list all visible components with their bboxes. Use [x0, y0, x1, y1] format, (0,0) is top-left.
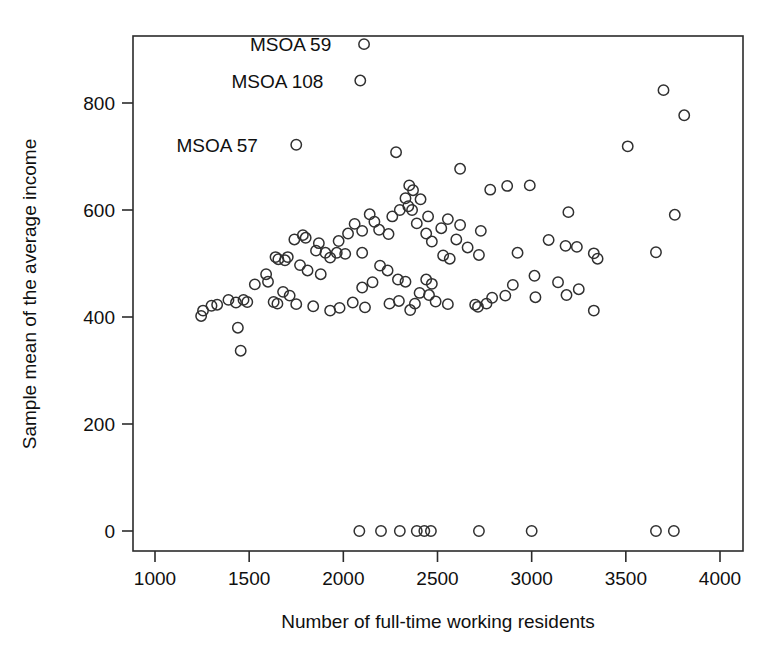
plot-frame: [133, 36, 743, 551]
data-point: [348, 297, 358, 307]
data-point: [357, 226, 367, 236]
data-point: [445, 253, 455, 263]
data-point: [383, 229, 393, 239]
data-point: [508, 280, 518, 290]
data-point: [295, 260, 305, 270]
data-point: [393, 274, 403, 284]
data-point: [316, 269, 326, 279]
data-point: [414, 288, 424, 298]
data-point: [235, 346, 245, 356]
data-point: [455, 220, 465, 230]
y-tick-label: 200: [83, 414, 115, 435]
data-point: [387, 211, 397, 221]
data-point: [400, 276, 410, 286]
data-point: [375, 260, 385, 270]
data-point: [525, 180, 535, 190]
data-point: [283, 252, 293, 262]
data-point: [572, 242, 582, 252]
data-point: [308, 301, 318, 311]
data-point: [300, 233, 310, 243]
data-point: [443, 214, 453, 224]
data-point: [543, 235, 553, 245]
data-point: [658, 85, 668, 95]
y-tick-label: 400: [83, 307, 115, 328]
data-point: [343, 228, 353, 238]
x-tick-label: 1000: [134, 568, 176, 589]
data-point: [474, 526, 484, 536]
data-point: [289, 234, 299, 244]
data-point: [651, 526, 661, 536]
data-point: [438, 250, 448, 260]
data-point: [280, 255, 290, 265]
x-axis-title: Number of full-time working residents: [281, 611, 595, 632]
data-point: [487, 293, 497, 303]
data-point-layer: [196, 39, 689, 536]
data-point: [250, 279, 260, 289]
data-point: [455, 164, 465, 174]
data-point: [391, 147, 401, 157]
annotation-layer: MSOA 59MSOA 108MSOA 57: [176, 34, 331, 156]
data-point: [679, 110, 689, 120]
data-point: [476, 226, 486, 236]
x-tick-label: 4000: [699, 568, 741, 589]
data-point: [651, 247, 661, 257]
data-point: [474, 250, 484, 260]
x-axis-ticks: 1000150020002500300035004000: [134, 551, 741, 589]
data-point: [415, 194, 425, 204]
data-point: [526, 526, 536, 536]
data-point: [263, 276, 273, 286]
y-axis-ticks: 0200400600800: [83, 93, 133, 542]
data-point: [382, 265, 392, 275]
y-tick-label: 0: [104, 521, 115, 542]
data-point: [485, 184, 495, 194]
data-point: [436, 223, 446, 233]
plot-canvas: 1000150020002500300035004000 02004006008…: [0, 0, 781, 647]
scatter-plot-figure: 1000150020002500300035004000 02004006008…: [0, 0, 781, 647]
data-point: [376, 526, 386, 536]
annotation-label: MSOA 57: [176, 135, 257, 156]
data-point: [670, 210, 680, 220]
data-point: [357, 248, 367, 258]
data-point: [561, 290, 571, 300]
data-point: [333, 236, 343, 246]
data-point: [367, 277, 377, 287]
data-point: [357, 282, 367, 292]
data-point: [412, 218, 422, 228]
data-point: [424, 290, 434, 300]
x-tick-label: 2000: [322, 568, 364, 589]
data-point: [451, 234, 461, 244]
data-point: [553, 277, 563, 287]
data-point: [291, 140, 301, 150]
data-point: [443, 299, 453, 309]
data-point: [233, 323, 243, 333]
data-point: [261, 269, 271, 279]
y-axis-title: Sample mean of the average income: [19, 139, 40, 450]
data-point: [365, 209, 375, 219]
data-point: [669, 526, 679, 536]
data-point: [334, 303, 344, 313]
data-point: [623, 141, 633, 151]
data-point: [500, 290, 510, 300]
data-point: [394, 296, 404, 306]
data-point: [359, 39, 369, 49]
annotation-label: MSOA 108: [231, 71, 323, 92]
data-point: [462, 242, 472, 252]
data-point: [355, 75, 365, 85]
data-point: [354, 526, 364, 536]
data-point: [423, 211, 433, 221]
data-point: [291, 299, 301, 309]
data-point: [360, 302, 370, 312]
data-point: [430, 296, 440, 306]
x-tick-label: 2500: [416, 568, 458, 589]
data-point: [574, 284, 584, 294]
data-point: [512, 248, 522, 258]
data-point: [242, 297, 252, 307]
data-point: [395, 526, 405, 536]
plot-box: [133, 36, 743, 551]
annotation-label: MSOA 59: [250, 34, 331, 55]
x-tick-label: 1500: [228, 568, 270, 589]
data-point: [426, 526, 436, 536]
y-tick-label: 600: [83, 200, 115, 221]
data-point: [502, 181, 512, 191]
data-point: [529, 271, 539, 281]
